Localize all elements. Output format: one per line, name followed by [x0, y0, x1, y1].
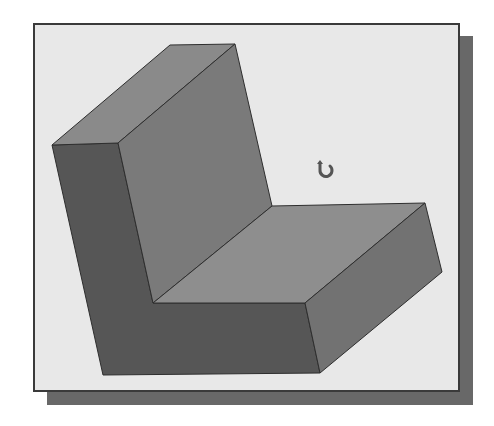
model-viewport[interactable]	[0, 0, 494, 426]
l-shaped-solid[interactable]	[52, 44, 442, 375]
rotate-orbit-icon	[314, 157, 336, 179]
